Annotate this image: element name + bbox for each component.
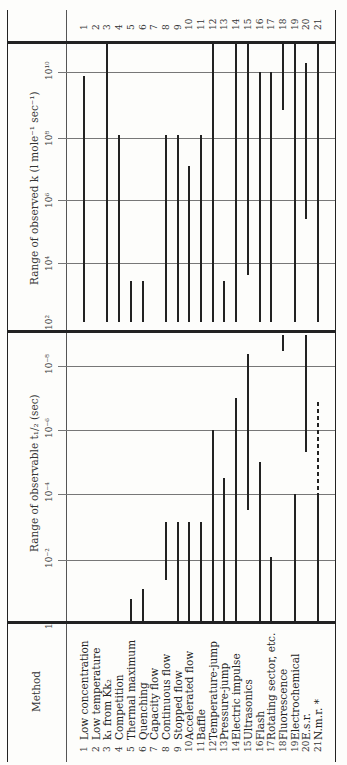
method-divider xyxy=(7,621,336,624)
t-half-range-bar xyxy=(235,398,237,621)
row-number-top: 2 xyxy=(91,24,101,30)
t-half-range-bar xyxy=(282,335,284,351)
k-tick-label: 10¹⁰ xyxy=(44,61,54,80)
method-label: Temperature-jump xyxy=(207,641,219,740)
row-number: 13 xyxy=(219,741,229,752)
k-tick-label: 10⁶ xyxy=(44,193,54,208)
t-half-gridline xyxy=(58,366,335,367)
t-half-tick-label: 10⁻² xyxy=(44,548,54,568)
row-number: 14 xyxy=(231,741,241,752)
row-number: 21 xyxy=(313,741,323,752)
t-half-range-bar xyxy=(223,478,225,621)
row-number: 1 xyxy=(79,746,89,752)
k-range-bar xyxy=(270,72,272,322)
row-number-top: 11 xyxy=(196,19,206,30)
t-half-tick-label: 10⁻⁴ xyxy=(44,482,54,502)
row-number: 17 xyxy=(266,741,276,752)
row-number: 18 xyxy=(278,741,288,752)
method-label: Low concentration xyxy=(78,640,90,740)
t-half-range-bar xyxy=(305,335,307,453)
row-number-top: 15 xyxy=(243,19,253,30)
row-number: 2 xyxy=(91,746,101,752)
row-number-top: 19 xyxy=(290,19,300,30)
t-half-tick-label: 10⁻⁸ xyxy=(44,354,54,374)
method-label: Continuous flow xyxy=(160,654,172,740)
row-number-top: 4 xyxy=(114,24,124,30)
row-number-top: 16 xyxy=(255,19,265,30)
k-top-border xyxy=(7,41,336,44)
k-range-bar xyxy=(142,281,144,322)
method-label: Fluorescence xyxy=(277,669,289,740)
t-half-range-bar xyxy=(200,522,202,621)
row-number-top: 5 xyxy=(126,24,136,30)
row-number: 5 xyxy=(126,746,136,752)
rotated-table: Range of observed k (l mole⁻¹ sec⁻¹) Ran… xyxy=(0,0,347,765)
row-number-top: 17 xyxy=(266,19,276,30)
t-half-range-bar-dashed xyxy=(317,402,319,494)
row-number: 6 xyxy=(138,746,148,752)
row-number-top: 10 xyxy=(184,19,194,30)
t-half-range-bar xyxy=(212,430,214,621)
method-label: Stopped flow xyxy=(172,670,184,740)
method-label: Competition xyxy=(113,675,125,741)
method-label: Capacity flow xyxy=(148,668,160,740)
k-range-bar xyxy=(177,135,179,322)
row-number-top: 20 xyxy=(301,19,311,30)
row-number: 4 xyxy=(114,746,124,752)
table-border-left xyxy=(7,10,8,762)
k-header: Range of observed k (l mole⁻¹ sec⁻¹) xyxy=(28,91,40,285)
row-number-top: 6 xyxy=(138,24,148,30)
k-range-bar xyxy=(165,135,167,322)
row-number: 8 xyxy=(161,746,171,752)
k-range-bar xyxy=(200,135,202,322)
t-half-range-bar xyxy=(188,522,190,621)
k-range-bar xyxy=(130,281,132,322)
section-divider xyxy=(7,330,336,333)
row-number: 15 xyxy=(243,741,253,752)
t-half-header: Range of observable t₁/₂ (sec) xyxy=(28,394,40,552)
row-number: 12 xyxy=(208,741,218,752)
row-number: 16 xyxy=(255,741,265,752)
row-number-top: 18 xyxy=(278,19,288,30)
t-half-range-bar xyxy=(317,494,319,621)
method-label: Low temperature xyxy=(90,648,102,740)
t-half-range-bar xyxy=(247,354,249,510)
row-number-top: 8 xyxy=(161,24,171,30)
method-label: Flash xyxy=(254,711,266,740)
method-label: Quenching xyxy=(137,682,149,740)
k-tick-label: 10⁸ xyxy=(44,131,54,146)
k-range-bar xyxy=(188,166,190,322)
method-label: N.m.r. * xyxy=(312,699,324,740)
t-half-tick-label: 10⁻⁶ xyxy=(44,418,54,438)
method-label: Electrochemical xyxy=(289,654,301,740)
method-label: Baffle xyxy=(195,709,207,740)
row-number: 10 xyxy=(184,741,194,752)
k-range-bar xyxy=(118,135,120,322)
method-label: Accelerated flow xyxy=(183,651,195,740)
method-label: Thermal maximum xyxy=(125,640,137,740)
k-range-bar xyxy=(223,281,225,322)
k-range-bar xyxy=(294,44,296,322)
t-half-range-bar xyxy=(270,557,272,621)
row-number-top: 1 xyxy=(79,24,89,30)
row-number-top: 14 xyxy=(231,19,241,30)
method-label: E.s.r. xyxy=(300,713,312,740)
k-range-bar xyxy=(282,44,284,110)
method-label: Ultrasonics xyxy=(242,679,254,740)
t-half-range-bar xyxy=(177,522,179,621)
k-range-bar xyxy=(247,44,249,275)
method-label: Pressure-jump xyxy=(218,663,230,740)
t-half-range-bar xyxy=(165,522,167,579)
header-divider xyxy=(66,10,67,762)
method-label: Electric impulse xyxy=(230,653,242,740)
t-half-range-bar xyxy=(142,589,144,621)
k-range-bar xyxy=(212,44,214,322)
method-label: k₁ from Kk₂ xyxy=(101,679,113,740)
t-half-range-bar xyxy=(130,599,132,621)
method-header: Method xyxy=(30,671,42,712)
k-range-bar xyxy=(83,76,85,322)
k-range-bar xyxy=(106,44,108,322)
row-number-top: 21 xyxy=(313,19,323,30)
row-number-top: 7 xyxy=(149,24,159,30)
row-number-top: 12 xyxy=(208,19,218,30)
